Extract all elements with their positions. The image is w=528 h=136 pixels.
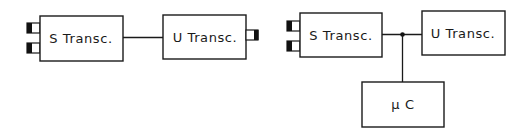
u-transceiver-label: U Transc. [431,26,496,41]
block-diagram: S Transc. U Transc. S Transc. [0,0,528,136]
u-transceiver-label: U Transc. [173,30,238,45]
s-transceiver-block: S Transc. [300,13,382,57]
s-transceiver-label: S Transc. [49,31,112,46]
s-transceiver-connector-top [287,21,300,31]
microcontroller-label: μ C [391,97,414,112]
u-transceiver-block: U Transc. [163,15,246,59]
microcontroller-block: μ C [362,82,444,127]
u-transceiver-block: U Transc. [422,11,505,55]
u-transceiver-connector [246,30,259,40]
left-diagram: S Transc. U Transc. [27,15,259,61]
s-transceiver-connector-bottom [287,41,300,51]
s-transceiver-connector-top [27,23,40,33]
s-transceiver-block: S Transc. [40,16,123,61]
s-transceiver-label: S Transc. [309,28,372,43]
s-transceiver-connector-bottom [27,43,40,53]
right-diagram: S Transc. U Transc. μ C [287,11,505,127]
